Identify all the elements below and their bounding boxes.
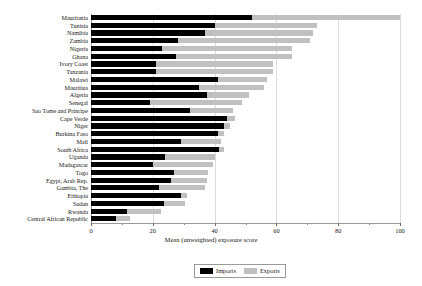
- bar-row: [91, 169, 400, 177]
- y-label-burkina-faso: Burkina Faso: [56, 130, 88, 138]
- x-tick-60: [276, 223, 277, 226]
- bar-imports: [91, 100, 150, 105]
- bar-imports: [91, 30, 205, 35]
- bar-imports: [91, 131, 218, 136]
- bar-imports: [91, 15, 252, 20]
- bar-row: [91, 37, 400, 45]
- x-minor-tick-90: [369, 223, 370, 225]
- bar-imports: [91, 209, 127, 214]
- x-tick-label-40: 40: [211, 227, 217, 235]
- bar-row: [91, 192, 400, 200]
- bar-row: [91, 84, 400, 92]
- x-tick-20: [153, 223, 154, 226]
- bar-row: [91, 115, 400, 123]
- bar-imports: [91, 38, 178, 43]
- bar-imports: [91, 139, 181, 144]
- y-label-tunisia: Tunisia: [70, 22, 88, 30]
- bar-imports: [91, 77, 218, 82]
- bar-row: [91, 184, 400, 192]
- y-label-uganda: Uganda: [69, 153, 88, 161]
- bar-imports: [91, 92, 207, 97]
- y-label-malawi: Malawi: [69, 76, 88, 84]
- y-label-madagascar: Madagascar: [59, 161, 88, 169]
- bar-row: [91, 146, 400, 154]
- bar-imports: [91, 162, 153, 167]
- bar-imports: [91, 23, 215, 28]
- x-minor-tick-10: [122, 223, 123, 225]
- bar-imports: [91, 216, 116, 221]
- x-minor-tick-70: [307, 223, 308, 225]
- x-tick-label-60: 60: [273, 227, 279, 235]
- bar-imports: [91, 193, 181, 198]
- bar-row: [91, 22, 400, 30]
- y-label-ethiopia: Ethiopia: [68, 192, 89, 200]
- bar-row: [91, 45, 400, 53]
- bar-row: [91, 130, 400, 138]
- legend-label-exports: Exports: [260, 267, 280, 275]
- x-minor-tick-50: [246, 223, 247, 225]
- bar-imports: [91, 178, 171, 183]
- gridline-100: [400, 14, 401, 223]
- bar-row: [91, 122, 400, 130]
- y-label-sudan: Sudan: [73, 200, 88, 208]
- bar-imports: [91, 69, 156, 74]
- legend-entry-exports[interactable]: Exports: [244, 267, 280, 275]
- y-label-ivory-coast: Ivory Coast: [60, 60, 88, 68]
- y-label-cape-verde: Cape Verde: [60, 115, 88, 123]
- x-tick-label-0: 0: [89, 227, 92, 235]
- bar-row: [91, 53, 400, 61]
- bar-row: [91, 76, 400, 84]
- x-tick-0: [91, 223, 92, 226]
- bar-imports: [91, 154, 165, 159]
- y-label-egypt-arab-rep: Egypt, Arab Rep.: [46, 177, 88, 185]
- y-label-nigeria: Nigeria: [70, 45, 88, 53]
- x-axis-title: Mean (unweighted) exposure score: [0, 236, 422, 243]
- x-tick-40: [215, 223, 216, 226]
- y-axis-category-labels: MauritaniaTunisiaNamibiaZambiaNigeriaGha…: [0, 14, 88, 223]
- y-label-mauritius: Mauritius: [64, 84, 88, 92]
- legend-swatch-exports: [244, 268, 257, 274]
- plot-area: 020406080100: [91, 14, 400, 223]
- y-label-ghana: Ghana: [72, 53, 88, 61]
- x-tick-label-100: 100: [395, 227, 405, 235]
- y-label-togo: Togo: [76, 169, 88, 177]
- y-label-zambia: Zambia: [69, 37, 88, 45]
- bar-row: [91, 60, 400, 68]
- bar-imports: [91, 85, 199, 90]
- y-label-tanzania: Tanzania: [66, 68, 88, 76]
- bar-row: [91, 215, 400, 223]
- y-label-senegal: Senegal: [69, 99, 88, 107]
- y-label-algeria: Algeria: [70, 91, 88, 99]
- y-label-mali: Mali: [77, 138, 88, 146]
- bar-imports: [91, 201, 164, 206]
- bar-row: [91, 161, 400, 169]
- bar-imports: [91, 170, 174, 175]
- y-label-mauritania: Mauritania: [61, 14, 88, 22]
- bar-row: [91, 107, 400, 115]
- y-label-rwanda: Rwanda: [68, 208, 88, 216]
- bar-imports: [91, 116, 227, 121]
- bar-imports: [91, 61, 156, 66]
- bar-imports: [91, 185, 159, 190]
- y-label-central-african-republic: Central African Republic: [27, 215, 88, 223]
- bar-row: [91, 177, 400, 185]
- exposure-score-bar-chart: MauritaniaTunisiaNamibiaZambiaNigeriaGha…: [0, 0, 422, 286]
- bar-imports: [91, 108, 190, 113]
- y-label-niger: Niger: [74, 122, 88, 130]
- chart-legend: ImportsExports: [194, 264, 286, 278]
- bar-row: [91, 138, 400, 146]
- bar-row: [91, 14, 400, 22]
- y-label-sao-tome-and-principe: Sao Tome and Principe: [32, 107, 88, 115]
- bar-row: [91, 200, 400, 208]
- y-label-south-africa: South Africa: [57, 146, 88, 154]
- x-tick-80: [338, 223, 339, 226]
- bar-row: [91, 153, 400, 161]
- bar-imports: [91, 54, 176, 59]
- x-tick-label-80: 80: [335, 227, 341, 235]
- legend-entry-imports[interactable]: Imports: [200, 267, 236, 275]
- bar-row: [91, 68, 400, 76]
- bar-row: [91, 91, 400, 99]
- x-minor-tick-30: [184, 223, 185, 225]
- bar-row: [91, 99, 400, 107]
- y-label-gambia-the: Gambia, The: [56, 184, 88, 192]
